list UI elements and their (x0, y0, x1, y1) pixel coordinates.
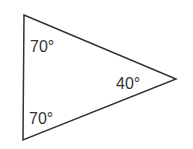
angle-label-right: 40° (116, 75, 140, 92)
angle-label-bottom-left: 70° (29, 110, 53, 127)
triangle-diagram: 70° 40° 70° (0, 0, 193, 149)
angle-label-top-left: 70° (30, 38, 54, 55)
